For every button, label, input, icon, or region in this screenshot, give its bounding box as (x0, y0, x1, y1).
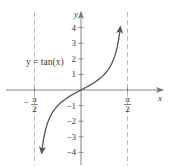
y-axis-label: y (73, 9, 78, 19)
x-axis-label: x (157, 93, 162, 103)
tan-graph: 4321−1−2−3−4−π2π2xyy = tan(x) (0, 0, 173, 167)
tick-denominator: 2 (125, 104, 130, 114)
y-tick-label: −3 (66, 132, 76, 142)
y-tick-label: 1 (72, 69, 77, 79)
y-tick-label: −4 (66, 147, 76, 157)
tick-denominator: 2 (32, 104, 37, 114)
tick-numerator: π (32, 94, 37, 104)
y-tick-label: 2 (72, 54, 77, 64)
chart-canvas: 4321−1−2−3−4−π2π2xyy = tan(x) (0, 0, 173, 167)
y-tick-label: −1 (66, 101, 76, 111)
tick-sign: − (23, 97, 28, 107)
y-tick-label: 4 (72, 23, 77, 33)
x-tick-label: −π2 (23, 94, 38, 114)
tick-numerator: π (125, 94, 130, 104)
function-label: y = tan(x) (26, 57, 64, 68)
y-tick-label: −2 (66, 116, 76, 126)
x-tick-label: π2 (124, 94, 131, 114)
y-tick-label: 3 (72, 38, 77, 48)
